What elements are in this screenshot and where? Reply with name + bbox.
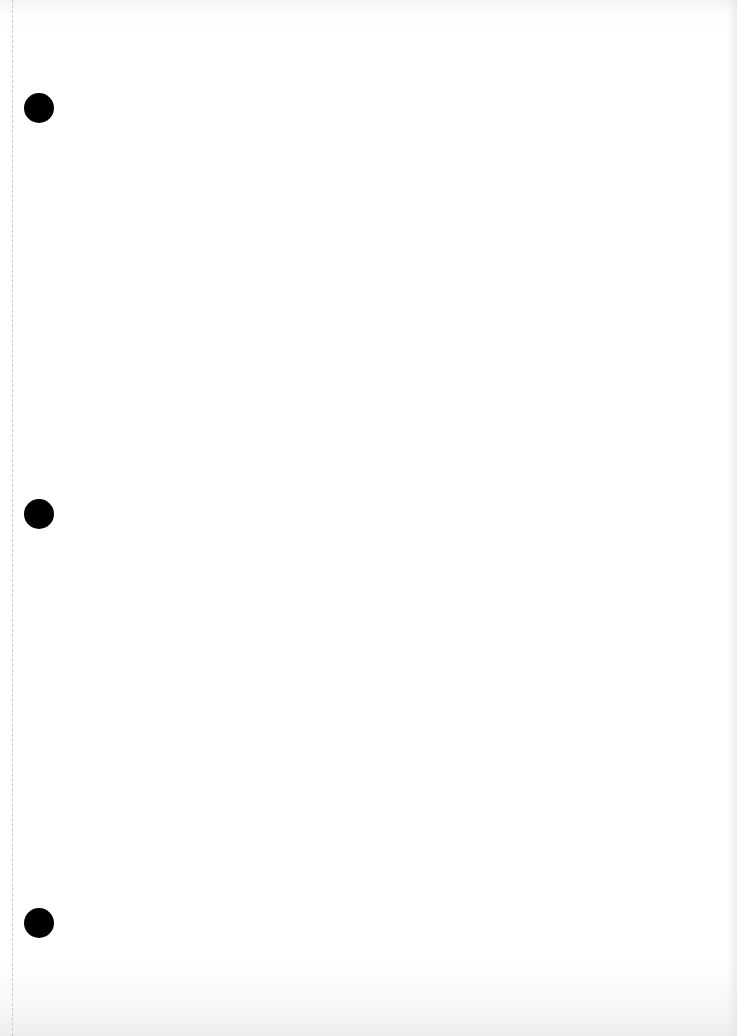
blank-paper-sheet: [0, 0, 737, 1036]
dashed-margin-line: [12, 0, 13, 1036]
punch-hole-bottom: [24, 908, 54, 938]
punch-hole-middle: [24, 499, 54, 529]
page-edge-shadow: [727, 0, 737, 1036]
punch-hole-top: [24, 93, 54, 123]
